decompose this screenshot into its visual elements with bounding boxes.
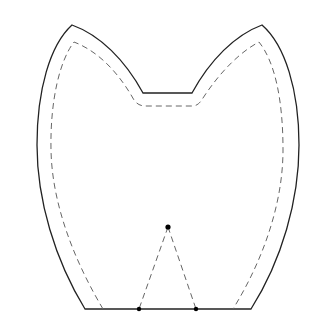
dart-left-leg [139, 227, 168, 309]
dart-base-left-marker [137, 307, 141, 311]
dart-base-right-marker [194, 307, 198, 311]
cut-line [37, 25, 299, 309]
stitch-line [51, 42, 283, 309]
dart-right-leg [168, 227, 196, 309]
owl-pattern-diagram [0, 0, 312, 324]
pattern-canvas [0, 0, 312, 324]
dart-apex-marker [165, 224, 170, 229]
